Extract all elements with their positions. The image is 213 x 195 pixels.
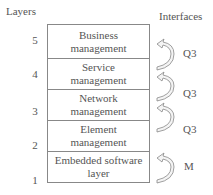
interface-arrows	[0, 0, 213, 195]
curved-arrow-up-icon	[157, 153, 174, 183]
interface-label-q3-5-4: Q3	[183, 47, 196, 59]
curved-arrow-up-icon	[157, 72, 174, 101]
interface-label-m-2-1: M	[184, 160, 194, 172]
interface-label-q3-4-3: Q3	[183, 87, 196, 99]
curved-arrow-up-icon	[157, 39, 174, 70]
curved-arrow-up-icon	[157, 103, 174, 132]
interface-label-q3-3-2: Q3	[183, 123, 196, 135]
